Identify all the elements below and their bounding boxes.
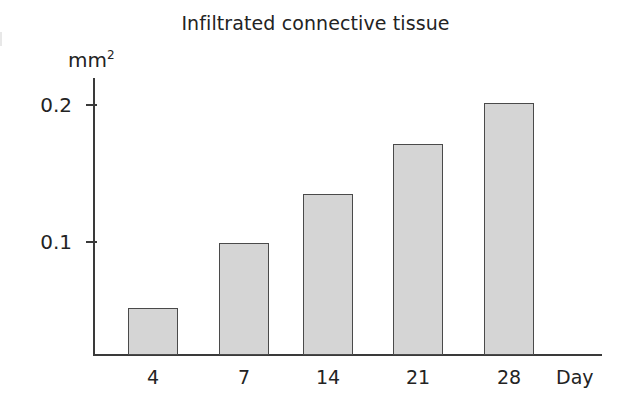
y-axis-line	[93, 78, 95, 356]
y-axis-unit-label: mm2	[68, 48, 115, 72]
scan-artifact	[0, 32, 2, 46]
bar-day-28	[484, 103, 534, 355]
x-tick-label-1: 7	[219, 366, 269, 388]
x-tick-label-2: 14	[303, 366, 353, 388]
bar-day-4	[128, 308, 178, 355]
x-axis-label: Day	[556, 366, 594, 388]
y-axis-unit-exponent: 2	[107, 48, 115, 62]
chart-title: Infiltrated connective tissue	[0, 12, 631, 34]
y-axis-unit-base: mm	[68, 48, 107, 72]
y-tick-mark-1	[86, 241, 97, 243]
y-tick-label-0: 0.2	[20, 93, 72, 117]
bar-day-14	[303, 194, 353, 355]
bar-chart: Infiltrated connective tissue mm2 0.2 0.…	[0, 0, 631, 415]
bar-day-21	[393, 144, 443, 355]
y-tick-mark-0	[86, 104, 97, 106]
x-tick-label-0: 4	[128, 366, 178, 388]
y-tick-label-1: 0.1	[20, 230, 72, 254]
x-tick-label-3: 21	[393, 366, 443, 388]
x-tick-label-4: 28	[484, 366, 534, 388]
bar-day-7	[219, 243, 269, 355]
